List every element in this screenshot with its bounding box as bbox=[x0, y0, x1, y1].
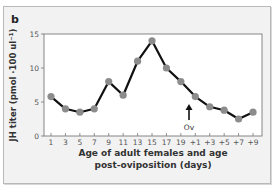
x-axis-label-line-1: Age of adult females and age bbox=[44, 147, 262, 159]
data-point bbox=[47, 93, 54, 100]
data-point bbox=[235, 115, 242, 122]
x-tick-label: 1 bbox=[49, 138, 54, 147]
data-point bbox=[134, 58, 141, 65]
data-point bbox=[62, 105, 69, 112]
data-point bbox=[221, 107, 228, 114]
x-axis-label: Age of adult females and age post-ovipos… bbox=[44, 147, 262, 171]
y-tick-label: 0 bbox=[34, 132, 39, 141]
x-tick-label: +9 bbox=[247, 138, 258, 147]
x-tick-label: 11 bbox=[118, 138, 128, 147]
x-tick-label: +7 bbox=[233, 138, 244, 147]
data-point bbox=[120, 92, 127, 99]
data-point bbox=[163, 64, 170, 71]
x-tick-label: 5 bbox=[77, 138, 82, 147]
ov-label: Ov bbox=[184, 123, 195, 132]
plot-area bbox=[44, 34, 262, 136]
data-point bbox=[91, 105, 98, 112]
x-tick-label: 3 bbox=[63, 138, 68, 147]
x-tick-label: 9 bbox=[106, 138, 111, 147]
data-point bbox=[192, 93, 199, 100]
data-point bbox=[105, 78, 112, 85]
y-tick-label: 10 bbox=[29, 64, 39, 73]
x-tick-label: 7 bbox=[92, 138, 97, 147]
x-tick-label: +3 bbox=[204, 138, 215, 147]
data-point bbox=[148, 37, 155, 44]
y-axis-label: JH titer (pmol ·100 ul⁻¹) bbox=[8, 25, 22, 145]
y-tick-label: 15 bbox=[29, 30, 39, 39]
y-axis: 051015 bbox=[29, 30, 44, 141]
x-tick-label: 13 bbox=[133, 138, 143, 147]
x-tick-label: 15 bbox=[147, 138, 157, 147]
data-point bbox=[249, 109, 256, 116]
x-tick-label: 19 bbox=[176, 138, 186, 147]
data-point bbox=[206, 103, 213, 110]
data-point bbox=[76, 109, 83, 116]
y-tick-label: 5 bbox=[34, 98, 39, 107]
x-tick-label: +1 bbox=[190, 138, 201, 147]
x-tick-label: 17 bbox=[162, 138, 172, 147]
x-tick-label: +5 bbox=[219, 138, 230, 147]
x-axis-label-line-2: post-oviposition (days) bbox=[44, 159, 262, 171]
data-point bbox=[177, 78, 184, 85]
